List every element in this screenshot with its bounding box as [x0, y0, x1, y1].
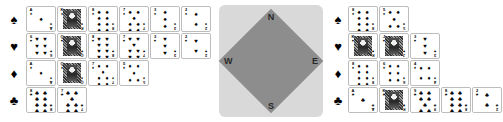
card-pip: ♠ — [97, 27, 100, 32]
card-pips: ♦♦♦♦♦ — [126, 63, 142, 83]
card-pip: ♥ — [128, 54, 132, 59]
card-pip: ♦ — [365, 81, 368, 86]
card-pip: ♠ — [396, 9, 399, 15]
playing-card[interactable]: 7♣7♣♣♣♣♣♣♣♣ — [57, 87, 87, 113]
card-pip: ♣ — [458, 108, 462, 113]
card-pip: ♦ — [136, 63, 139, 69]
card-pip: ♥ — [136, 36, 140, 42]
hand-west: ♠♥♦♣ A♠A♠♠K♠K♠8♠8♠♠♠♠♠♠♠♠♠7♠7♠♠♠♠♠♠♠♠3♠3… — [2, 6, 212, 114]
playing-card[interactable]: K♣K♣ — [379, 87, 409, 113]
suit-row-spade: A♠A♠♠K♠K♠8♠8♠♠♠♠♠♠♠♠♠7♠7♠♠♠♠♠♠♠♠3♠3♠♠♠♠2… — [26, 6, 212, 33]
face-card-art — [63, 36, 81, 56]
suit-symbol-heart: ♥ — [328, 33, 348, 60]
card-pip: ♠ — [128, 27, 131, 32]
suit-row-spade: 8♠8♠♠♠♠♠♠♠♠♠5♠5♠♠♠♠♠♠ — [348, 6, 503, 33]
playing-card[interactable]: 5♦5♦♦♦♦♦♦ — [119, 60, 149, 86]
card-pip: ♥ — [423, 43, 427, 49]
suit-symbol-diamond: ♦ — [328, 60, 348, 87]
playing-card[interactable]: 6♦6♦♦♦♦♦♦♦ — [379, 60, 409, 86]
suit-symbol-club: ♣ — [2, 87, 26, 114]
card-pip: ♣ — [74, 108, 78, 113]
playing-card[interactable]: 7♥7♥♥♥♥♥♥♥♥ — [119, 33, 149, 59]
card-pip: ♠ — [163, 23, 166, 29]
playing-card[interactable]: 2♠2♠♠♠ — [181, 6, 211, 32]
playing-card[interactable]: K♠K♠ — [57, 6, 87, 32]
playing-card[interactable]: 8♥8♥♥♥♥♥♥♥♥♥ — [88, 33, 118, 59]
compass-label-north: N — [268, 12, 275, 22]
playing-card[interactable]: 8♠8♠♠♠♠♠♠♠♠♠ — [88, 6, 118, 32]
playing-card[interactable]: 3♥3♥♥♥♥ — [150, 33, 180, 59]
card-pip: ♥ — [43, 36, 47, 42]
card-pip: ♠ — [128, 9, 131, 15]
card-pip: ♦ — [427, 75, 430, 81]
card-pip: ♥ — [423, 50, 427, 56]
playing-card[interactable]: 3♠3♠♠♠♠ — [150, 6, 180, 32]
suit-symbol-spade: ♠ — [328, 6, 348, 33]
card-pips: ♥♥♥ — [157, 36, 173, 56]
compass-label-west: W — [224, 56, 233, 66]
card-pip: ♦ — [357, 81, 360, 86]
playing-card[interactable]: 2♥2♥♥♥ — [181, 33, 211, 59]
playing-card[interactable]: J♥J♥ — [379, 33, 409, 59]
playing-card[interactable]: 8♠8♠♠♠♠♠♠♠♠♠ — [348, 6, 378, 32]
card-pip: ♦ — [39, 70, 42, 76]
playing-card[interactable]: 2♣2♣♣♣ — [472, 87, 502, 113]
suit-row-diamond: 8♦8♦♦♦♦♦♦♦♦♦6♦6♦♦♦♦♦♦♦4♦4♦♦♦♦♦ — [348, 60, 503, 87]
playing-card[interactable]: K♥K♥ — [348, 33, 378, 59]
card-pip: ♥ — [43, 43, 47, 49]
playing-card[interactable]: Q♥Q♥ — [57, 33, 87, 59]
card-pip: ♦ — [105, 63, 108, 69]
card-pips: ♣♣ — [479, 90, 495, 110]
card-pip: ♥ — [97, 54, 101, 59]
card-pips: ♣ — [355, 90, 371, 110]
card-pip: ♠ — [136, 27, 139, 32]
playing-card[interactable]: 6♥6♥♥♥♥♥♥♥ — [26, 33, 56, 59]
playing-card[interactable]: A♣A♣♣ — [348, 87, 378, 113]
card-pip: ♣ — [485, 92, 489, 98]
card-pip: ♠ — [194, 21, 197, 27]
card-pips: ♦♦♦♦ — [417, 63, 433, 83]
playing-card[interactable]: 7♠7♠♠♠♠♠♠♠♠ — [119, 6, 149, 32]
card-pips: ♦♦♦♦♦♦♦ — [95, 63, 111, 83]
playing-card[interactable]: Q♦Q♦ — [57, 60, 87, 86]
playing-card[interactable]: 3♥3♥♥♥♥ — [410, 33, 440, 59]
card-pip: ♦ — [128, 63, 131, 69]
card-pip: ♣ — [427, 108, 431, 113]
card-pip: ♠ — [136, 9, 139, 15]
card-pip: ♣ — [450, 108, 454, 113]
card-pip: ♦ — [388, 63, 391, 69]
playing-card[interactable]: 4♦4♦♦♦♦♦ — [410, 60, 440, 86]
card-pip: ♦ — [128, 77, 131, 83]
card-pips: ♦ — [33, 63, 49, 83]
playing-card[interactable]: 9♣9♣♣♣♣♣♣♣♣♣♣ — [410, 87, 440, 113]
playing-card[interactable]: 8♣8♣♣♣♣♣♣♣♣♣ — [26, 87, 56, 113]
card-pip: ♦ — [136, 77, 139, 83]
playing-card[interactable]: 8♣8♣♣♣♣♣♣♣♣♣ — [441, 87, 471, 113]
card-pip: ♦ — [396, 77, 399, 83]
suit-rows-east: 8♠8♠♠♠♠♠♠♠♠♠5♠5♠♠♠♠♠♠K♥K♥J♥J♥3♥3♥♥♥♥8♦8♦… — [348, 6, 503, 114]
card-pips: ♥♥♥♥♥♥ — [33, 36, 49, 56]
playing-card[interactable]: 7♦7♦♦♦♦♦♦♦♦ — [88, 60, 118, 86]
playing-card[interactable]: 8♦8♦♦♦♦♦♦♦♦♦ — [348, 60, 378, 86]
suit-symbol-club: ♣ — [328, 87, 348, 114]
card-pip: ♣ — [427, 96, 431, 102]
card-pip: ♦ — [419, 65, 422, 71]
suit-row-heart: K♥K♥J♥J♥3♥3♥♥♥♥ — [348, 33, 503, 60]
suit-symbol-heart: ♥ — [2, 33, 26, 60]
playing-card[interactable]: A♦A♦♦ — [26, 60, 56, 86]
card-pips: ♥♥♥♥♥♥♥ — [126, 36, 142, 56]
card-pip: ♣ — [74, 90, 78, 96]
playing-card[interactable]: A♠A♠♠ — [26, 6, 56, 32]
suit-rows-west: A♠A♠♠K♠K♠8♠8♠♠♠♠♠♠♠♠♠7♠7♠♠♠♠♠♠♠♠3♠3♠♠♠♠2… — [26, 6, 212, 114]
playing-card[interactable]: 5♠5♠♠♠♠♠♠ — [379, 6, 409, 32]
card-pips: ♣♣♣♣♣♣♣♣ — [33, 90, 49, 110]
card-pip: ♣ — [419, 108, 423, 113]
card-pip: ♠ — [388, 9, 391, 15]
card-pip: ♦ — [388, 77, 391, 83]
card-pip: ♥ — [35, 36, 39, 42]
suit-row-club: A♣A♣♣K♣K♣9♣9♣♣♣♣♣♣♣♣♣♣8♣8♣♣♣♣♣♣♣♣♣2♣2♣♣♣ — [348, 87, 503, 114]
card-pip: ♣ — [66, 108, 70, 113]
card-pip: ♥ — [194, 38, 198, 44]
card-pip: ♠ — [163, 9, 166, 15]
